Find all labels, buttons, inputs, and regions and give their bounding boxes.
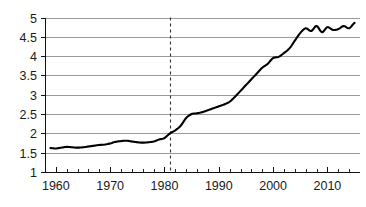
y-tick-label-6: 4 <box>30 50 37 64</box>
y-tick-label-3: 2.5 <box>20 108 37 122</box>
gridlines-group <box>45 19 360 154</box>
y-tick-label-0: 1 <box>30 166 37 180</box>
x-tick-label-1: 1970 <box>96 179 124 193</box>
y-tick-label-8: 5 <box>30 12 37 26</box>
y-tick-label-4: 3 <box>30 89 37 103</box>
chart-canvas: 11.522.533.544.55 1960197019801990200020… <box>0 0 366 207</box>
y-tick-label-7: 4.5 <box>20 31 37 45</box>
series-line-0 <box>50 23 354 149</box>
x-tick-label-2: 1980 <box>151 179 179 193</box>
y-axis-tick-labels: 11.522.533.544.55 <box>20 12 45 180</box>
data-series-group <box>50 23 354 149</box>
x-tick-label-0: 1960 <box>42 179 70 193</box>
x-tick-label-5: 2010 <box>314 179 342 193</box>
line-chart: 11.522.533.544.55 1960197019801990200020… <box>0 0 366 207</box>
x-tick-label-4: 2000 <box>259 179 287 193</box>
x-tick-label-3: 1990 <box>205 179 233 193</box>
y-tick-label-2: 2 <box>30 127 37 141</box>
y-tick-label-1: 1.5 <box>20 147 37 161</box>
x-axis-tick-labels: 196019701980199020002010 <box>42 179 341 193</box>
y-tick-label-5: 3.5 <box>20 69 37 83</box>
